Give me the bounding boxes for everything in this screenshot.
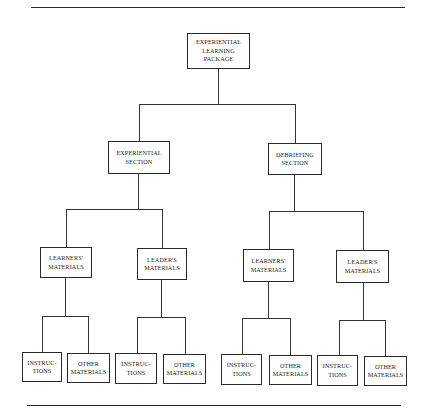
exp-learners-materials-box: LEARNERS' MATERIALS — [40, 247, 92, 278]
connector-experiential-horizontal — [66, 209, 163, 210]
connector-exp-leaders-horizontal — [137, 317, 185, 318]
box-label-line: DEBRIEFING — [276, 151, 314, 159]
box-label-line: TIONS — [127, 369, 146, 377]
box-label-line: MATERIALS — [48, 263, 84, 271]
experiential-section-box: EXPERIENTIAL SECTION — [108, 141, 170, 174]
connector-deb-leaders-horizontal — [339, 320, 385, 321]
box-label-line: MATERIALS — [71, 368, 107, 376]
box-label-line: MATERIALS — [167, 369, 203, 377]
box-label-line: TIONS — [328, 371, 347, 379]
exp-learners-instructions-box: INSTRUC- TIONS — [22, 352, 62, 382]
root-box-experiential-learning-package: EXPERIENTIAL LEARNING PACKAGE — [187, 33, 250, 69]
deb-leaders-materials-box: LEADER'S MATERIALS — [336, 250, 389, 283]
deb-leaders-instructions-box: INSTRUC- TIONS — [317, 355, 358, 386]
box-label-line: OTHER — [78, 360, 99, 368]
deb-learners-other-materials-box: OTHER MATERIALS — [269, 355, 312, 385]
box-label-line: MATERIALS — [368, 371, 404, 379]
connector-exp-leaders-right — [185, 317, 186, 354]
box-label-line: LEARNERS' — [252, 257, 286, 265]
top-rule — [31, 7, 405, 8]
box-label-line: PACKAGE — [204, 55, 233, 63]
box-label-line: MATERIALS — [251, 266, 287, 274]
connector-exp-learners-right — [88, 316, 89, 353]
deb-learners-instructions-box: INSTRUC- TIONS — [221, 354, 262, 385]
connector-to-deb-leaders — [363, 211, 364, 250]
connector-deb-leaders-right — [385, 320, 386, 356]
connector-exp-learners-left — [42, 316, 43, 352]
box-label-line: MATERIALS — [273, 370, 309, 378]
deb-leaders-other-materials-box: OTHER MATERIALS — [364, 356, 407, 386]
connector-deb-learners-horizontal — [242, 318, 290, 319]
connector-root-down — [218, 69, 219, 104]
box-label-line: LEARNERS' — [49, 254, 83, 262]
exp-learners-other-materials-box: OTHER MATERIALS — [67, 353, 110, 383]
box-label-line: LEARNING — [202, 47, 234, 55]
connector-exp-learners-horizontal — [42, 316, 88, 317]
box-label-line: EXPERIENTIAL — [196, 38, 241, 46]
connector-to-debriefing-section — [295, 104, 296, 143]
box-label-line: INSTRUC- — [323, 362, 352, 370]
box-label-line: OTHER — [375, 363, 396, 371]
connector-level1-horizontal — [139, 104, 295, 105]
connector-to-deb-learners — [269, 211, 270, 249]
box-label-line: MATERIALS — [144, 264, 180, 272]
exp-leaders-materials-box: LEADER'S MATERIALS — [137, 248, 187, 280]
box-label-line: LEADER'S — [348, 258, 378, 266]
connector-debriefing-down — [294, 175, 295, 211]
box-label-line: SECTION — [282, 159, 309, 167]
debriefing-section-box: DEBRIEFING SECTION — [268, 143, 322, 175]
connector-exp-leaders-left — [137, 317, 138, 353]
box-label-line: EXPERIENTIAL — [116, 149, 161, 157]
box-label-line: MATERIALS — [345, 267, 381, 275]
box-label-line: INSTRUC- — [121, 360, 150, 368]
connector-deb-leaders-down — [363, 283, 364, 320]
connector-exp-leaders-down — [161, 280, 162, 317]
deb-learners-materials-box: LEARNERS' MATERIALS — [243, 249, 294, 282]
box-label-line: SECTION — [126, 158, 153, 166]
box-label-line: INSTRUC- — [227, 361, 256, 369]
box-label-line: OTHER — [280, 362, 301, 370]
connector-to-experiential-section — [139, 104, 140, 141]
connector-deb-learners-left — [242, 318, 243, 354]
box-label-line: OTHER — [174, 361, 195, 369]
connector-deb-leaders-left — [339, 320, 340, 355]
box-label-line: INSTRUC- — [27, 359, 56, 367]
exp-leaders-other-materials-box: OTHER MATERIALS — [163, 354, 206, 384]
box-label-line: TIONS — [33, 367, 52, 375]
box-label-line: LEADER'S — [147, 256, 177, 264]
connector-to-exp-learners — [66, 209, 67, 247]
connector-exp-learners-down — [65, 278, 66, 316]
connector-experiential-down — [138, 174, 139, 209]
connector-to-exp-leaders — [162, 209, 163, 248]
box-label-line: TIONS — [232, 370, 251, 378]
exp-leaders-instructions-box: INSTRUC- TIONS — [115, 353, 157, 384]
connector-debriefing-horizontal — [269, 211, 364, 212]
connector-deb-learners-down — [268, 282, 269, 318]
bottom-rule — [27, 405, 401, 406]
connector-deb-learners-right — [290, 318, 291, 355]
